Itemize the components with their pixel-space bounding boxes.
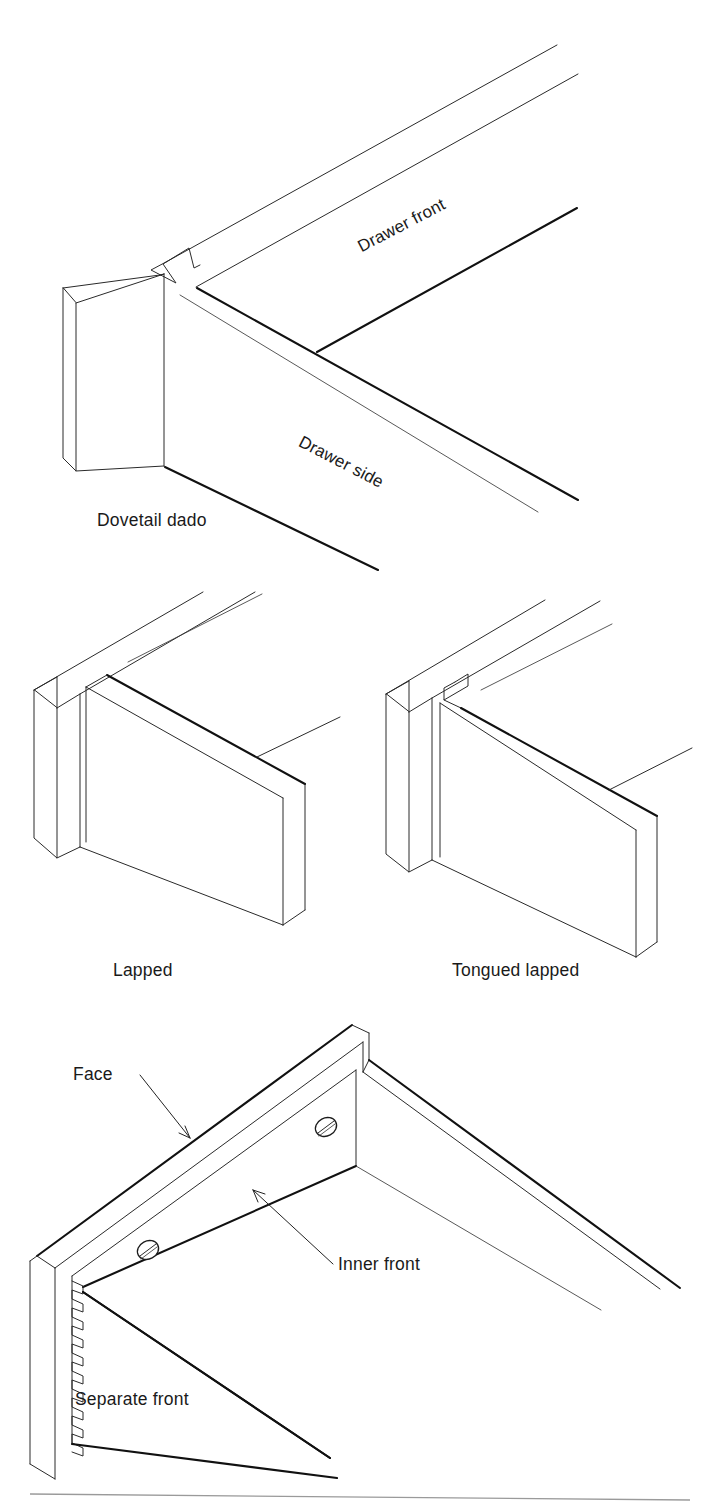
lapped-side-panel xyxy=(80,594,340,925)
caption-lapped: Lapped xyxy=(113,962,173,980)
caption-separate-front: Separate front xyxy=(75,1391,189,1409)
screw-head-upper xyxy=(312,1114,340,1140)
label-face: Face xyxy=(73,1066,113,1084)
drawer-front-far-edge xyxy=(311,208,577,355)
label-inner-front: Inner front xyxy=(338,1256,420,1274)
tongued-front-block xyxy=(386,681,432,872)
screw-head-lower xyxy=(134,1237,162,1263)
panel-dovetail-dado xyxy=(63,45,578,570)
panel-lapped xyxy=(34,592,340,925)
joint-illustrations-svg xyxy=(0,0,706,1510)
leader-face xyxy=(140,1075,190,1138)
figure-sheet: Drawer front Drawer side Dovetail dado L… xyxy=(0,0,706,1510)
dovetail-notch xyxy=(151,248,200,283)
drawer-side-end-block xyxy=(63,274,164,471)
lapped-front-board xyxy=(34,592,255,694)
tongued-side-panel xyxy=(432,624,692,957)
panel-tongued-lapped xyxy=(386,600,692,957)
page-rule xyxy=(30,1494,690,1500)
lapped-front-block xyxy=(34,677,80,858)
caption-dovetail-dado: Dovetail dado xyxy=(97,512,207,530)
leader-inner-front xyxy=(253,1190,333,1264)
dovetail-pins xyxy=(72,1281,83,1456)
caption-tongued-lapped: Tongued lapped xyxy=(452,962,579,980)
tongued-front-board xyxy=(386,600,600,698)
